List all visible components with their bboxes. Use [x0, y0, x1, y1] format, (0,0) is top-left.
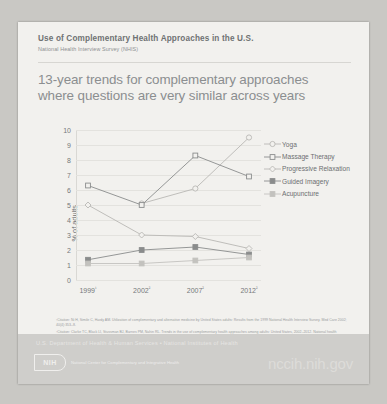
data-point: [193, 258, 198, 263]
data-point: [139, 232, 145, 238]
y-tick-label: 4: [49, 217, 71, 224]
slide-header: Use of Complementary Health Approaches i…: [38, 34, 351, 52]
legend-marker: [264, 176, 281, 186]
data-point: [86, 261, 91, 266]
x-tick-label: 1999¹: [65, 286, 111, 294]
data-point: [192, 234, 198, 240]
y-tick-label: 2: [49, 247, 71, 254]
legend-label: Progressive Relaxation: [282, 165, 350, 172]
nih-badge: NIH: [34, 354, 66, 371]
legend-item: Yoga: [264, 138, 350, 150]
agency-line: U.S. Department of Health & Human Servic…: [36, 340, 238, 346]
chart-legend: YogaMassage TherapyProgressive Relaxatio…: [264, 138, 350, 200]
x-tick-label: 2007²: [172, 286, 218, 294]
data-point: [193, 153, 198, 158]
header-subtitle: National Health Interview Survey (NHIS): [38, 46, 351, 52]
series-lines: [76, 130, 261, 280]
y-tick-label: 7: [49, 172, 71, 179]
series-line: [88, 258, 249, 264]
gridline: [76, 280, 261, 281]
legend-item: Massage Therapy: [264, 150, 350, 162]
legend-label: Acupuncture: [282, 190, 319, 197]
data-point: [139, 248, 144, 253]
infographic-slide: Use of Complementary Health Approaches i…: [18, 22, 369, 384]
y-tick-label: 3: [49, 232, 71, 239]
plot-area: % of adults 012345678910 1999¹2002²2007²…: [76, 130, 261, 280]
legend-marker: [264, 152, 281, 162]
y-tick-label: 1: [49, 262, 71, 269]
data-point: [270, 166, 276, 172]
series-line: [88, 205, 249, 249]
citation: ¹Citation: Ni H, Simile C, Hardy AM. Uti…: [56, 318, 347, 327]
data-point: [139, 203, 144, 208]
header-title: Use of Complementary Health Approaches i…: [38, 34, 351, 43]
data-point: [270, 191, 275, 196]
data-point: [193, 186, 198, 191]
legend-marker: [264, 164, 281, 174]
series-line: [88, 247, 249, 260]
legend-marker: [264, 189, 281, 199]
data-point: [270, 179, 275, 184]
legend-marker: [264, 139, 281, 149]
nih-logo-text: National Center for Complementary and In…: [71, 360, 179, 365]
legend-label: Yoga: [282, 141, 297, 148]
x-tick-label: 2012²: [226, 286, 272, 294]
data-point: [139, 261, 144, 266]
y-tick-label: 6: [49, 187, 71, 194]
header-divider: [38, 62, 351, 63]
legend-item: Progressive Relaxation: [264, 163, 350, 175]
x-tick-label: 2002²: [119, 286, 165, 294]
series-line: [88, 156, 249, 206]
footer-bar: U.S. Department of Health & Human Servic…: [18, 334, 369, 384]
data-point: [86, 183, 91, 188]
data-point: [270, 154, 275, 159]
data-point: [193, 245, 198, 250]
nih-logo: NIH National Center for Complementary an…: [34, 354, 179, 371]
page-title: 13-year trends for complementary approac…: [38, 72, 343, 103]
y-tick-label: 10: [49, 127, 71, 134]
y-tick-label: 0: [49, 277, 71, 284]
y-tick-label: 9: [49, 142, 71, 149]
y-tick-label: 8: [49, 157, 71, 164]
data-point: [246, 135, 251, 140]
website-url: nccih.nih.gov: [268, 355, 353, 372]
y-tick-label: 5: [49, 202, 71, 209]
data-point: [246, 246, 252, 252]
data-point: [270, 142, 275, 147]
legend-item: Acupuncture: [264, 188, 350, 200]
legend-label: Massage Therapy: [282, 153, 335, 160]
legend-item: Guided Imagery: [264, 175, 350, 187]
data-point: [247, 255, 252, 260]
data-point: [247, 174, 252, 179]
legend-label: Guided Imagery: [282, 178, 329, 185]
data-point: [85, 202, 91, 208]
